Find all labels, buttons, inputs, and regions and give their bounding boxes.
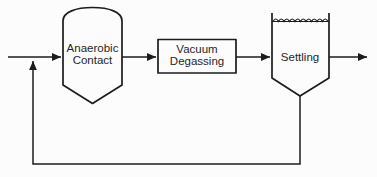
anaerobic-contact-label-line2: Contact <box>73 54 113 66</box>
vacuum-degassing-label-line1: Vacuum <box>176 43 217 55</box>
sludge-recycle-line <box>33 61 300 164</box>
anaerobic-contact-label-line1: Anaerobic <box>67 42 119 54</box>
diagram-svg: Anaerobic Contact Vacuum Degassing Settl… <box>0 0 377 177</box>
water-surface-icon <box>272 19 329 22</box>
settling-label: Settling <box>281 51 319 63</box>
vacuum-degassing-label-line2: Degassing <box>170 55 224 67</box>
process-flow-diagram: Anaerobic Contact Vacuum Degassing Settl… <box>0 0 377 177</box>
